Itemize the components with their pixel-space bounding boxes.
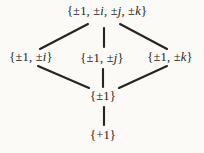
node-sub-j: {±1, ±j} xyxy=(80,52,123,65)
italic-unit: j xyxy=(114,51,118,65)
node-sub-k: {±1, ±k} xyxy=(147,51,192,64)
edge-group-sub-i xyxy=(40,24,88,49)
node-trivial: {+1} xyxy=(90,129,116,142)
edge-group-sub-k xyxy=(120,24,167,49)
italic-unit: k xyxy=(181,50,187,64)
edge-sub-k-center xyxy=(119,66,167,88)
node-sub-i: {±1, ±i} xyxy=(9,51,52,64)
italic-unit: k xyxy=(135,4,141,18)
italic-unit: i xyxy=(100,4,104,18)
italic-unit: j xyxy=(118,4,122,18)
edge-sub-i-center xyxy=(38,66,89,88)
italic-unit: i xyxy=(43,50,47,64)
node-center: {±1} xyxy=(90,90,116,103)
hasse-diagram: {±1, ±i, ±j, ±k}{±1, ±i}{±1, ±j}{±1, ±k}… xyxy=(0,0,204,153)
node-group: {±1, ±i, ±j, ±k} xyxy=(67,5,147,18)
